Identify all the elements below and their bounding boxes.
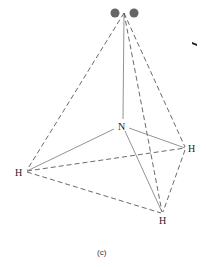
atom-label-h-right: H: [188, 143, 195, 154]
bond-n-h-bottom: [125, 131, 162, 212]
edge-apex-h-left: [27, 13, 124, 170]
stray-mark: [192, 42, 197, 46]
ammonia-tetrahedron-diagram: N H H H (c): [0, 0, 206, 267]
n-bonds: [27, 14, 185, 212]
tetrahedron-edges: [27, 13, 185, 213]
atom-label-n: N: [118, 121, 125, 132]
atom-label-h-bottom: H: [159, 215, 166, 226]
bond-n-h-right: [129, 128, 185, 148]
lone-pair-electron-left: [111, 9, 120, 18]
lone-pair-electron-right: [130, 9, 139, 18]
figure-caption: (c): [97, 248, 107, 257]
bond-n-apex: [123, 14, 124, 119]
edge-h-left-h-bottom: [27, 172, 161, 213]
atom-label-h-left: H: [15, 167, 22, 178]
edge-h-right-h-bottom: [163, 150, 185, 212]
edge-apex-h-right: [124, 13, 185, 147]
edge-apex-h-bottom: [124, 13, 162, 212]
